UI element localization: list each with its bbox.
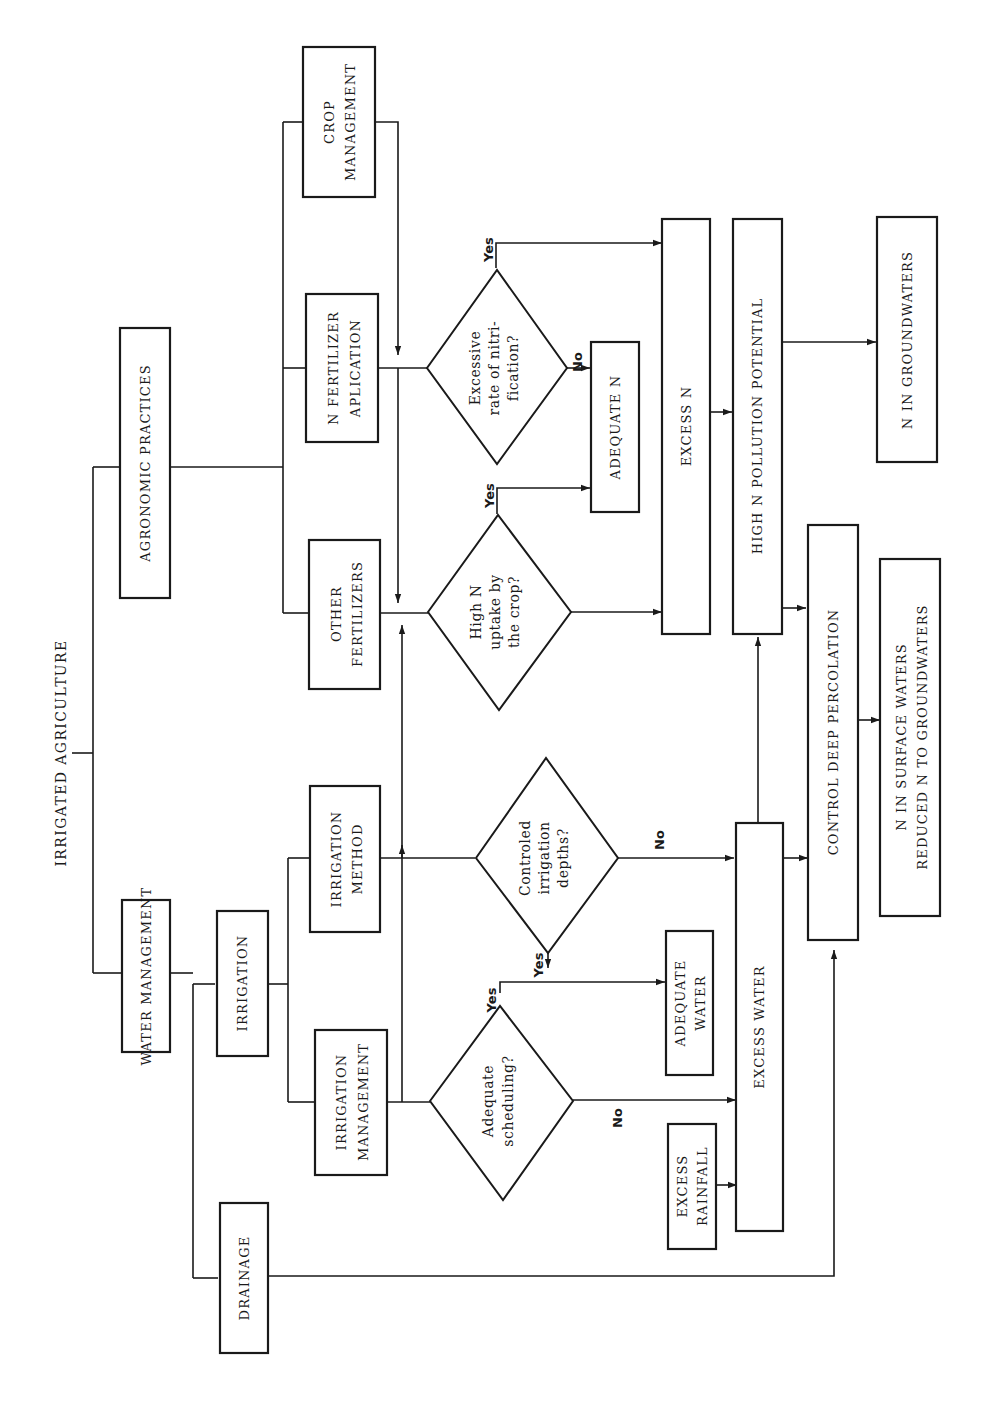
adequate-water-label-2: WATER: [693, 975, 708, 1030]
adequate-water-label-1: ADEQUATE: [673, 960, 688, 1048]
decision-excessive-nitrification[interactable]: Excessive rate of nitri- fication?: [427, 270, 567, 464]
scheduling-q-1: Adequate: [480, 1065, 496, 1138]
root-label: IRRIGATED AGRICULTURE: [53, 639, 69, 866]
control-deep-percolation-box[interactable]: CONTROL DEEP PERCOLATION: [808, 525, 858, 940]
excess-rainfall-label-1: EXCESS: [675, 1155, 690, 1218]
other-fertilizers-label-2: FERTILIZERS: [350, 561, 365, 667]
drainage-box[interactable]: DRAINAGE: [220, 1203, 268, 1353]
irrigation-box[interactable]: IRRIGATION: [217, 911, 268, 1056]
drainage-label: DRAINAGE: [237, 1236, 252, 1321]
depths-q-2: irrigation: [536, 821, 552, 894]
n-in-groundwaters-label: N IN GROUNDWATERS: [900, 251, 915, 429]
depths-q-1: Controled: [517, 820, 533, 896]
crop-management-label-2: MANAGEMENT: [343, 63, 358, 181]
adequate-n-box[interactable]: ADEQUATE N: [591, 342, 639, 512]
nitrification-q-1: Excessive: [467, 331, 483, 406]
agronomic-practices-label: AGRONOMIC PRACTICES: [138, 364, 153, 563]
nitrification-no-label: No: [570, 352, 585, 372]
other-fertilizers-label-1: OTHER: [329, 586, 344, 642]
n-fertilizer-label-1: N FERTILIZER: [326, 311, 341, 425]
depths-yes-label: Yes: [531, 952, 546, 978]
irrigation-method-label-2: METHOD: [350, 823, 365, 894]
decision-high-n-uptake[interactable]: High N uptake by the crop?: [428, 515, 571, 710]
n-in-surface-waters-box[interactable]: N IN SURFACE WATERS REDUCED N TO GROUNDW…: [880, 559, 940, 916]
uptake-yes-arrow: [497, 488, 590, 514]
crop-management-label-1: CROP: [322, 100, 337, 144]
decision-controled-depths[interactable]: Controled irrigation depths?: [476, 758, 618, 953]
uptake-q-3: the crop?: [506, 576, 522, 648]
irrigation-method-box[interactable]: IRRIGATION METHOD: [310, 786, 380, 932]
adequate-n-label: ADEQUATE N: [608, 375, 623, 481]
n-fertilizer-label-2: APLICATION: [348, 319, 363, 418]
scheduling-q-2: scheduling?: [500, 1055, 516, 1146]
scheduling-yes-arrow: [500, 982, 665, 993]
irrigation-management-box[interactable]: IRRIGATION MANAGEMENT: [315, 1030, 387, 1175]
excess-n-box[interactable]: EXCESS N: [662, 219, 710, 634]
high-n-pollution-box[interactable]: HIGH N POLLUTION POTENTIAL: [733, 219, 782, 634]
other-fertilizers-box[interactable]: OTHER FERTILIZERS: [309, 540, 380, 689]
water-management-box[interactable]: WATER MANAGEMENT: [122, 887, 170, 1066]
uptake-q-1: High N: [468, 585, 484, 640]
irrigation-method-label-1: IRRIGATION: [329, 811, 344, 908]
n-in-surface-waters-label-1: N IN SURFACE WATERS: [894, 643, 909, 831]
excess-water-label: EXCESS WATER: [752, 965, 767, 1088]
depths-q-3: depths?: [555, 828, 571, 888]
depths-no-label: No: [652, 830, 667, 850]
control-deep-percolation-label: CONTROL DEEP PERCOLATION: [826, 609, 841, 856]
agronomic-practices-box[interactable]: AGRONOMIC PRACTICES: [120, 328, 170, 598]
adequate-water-box[interactable]: ADEQUATE WATER: [666, 931, 713, 1075]
excess-rainfall-label-2: RAINFALL: [695, 1146, 710, 1226]
nitrification-q-2: rate of nitri-: [486, 321, 502, 416]
n-in-surface-waters-label-2: REDUCED N TO GROUNDWATERS: [915, 604, 930, 869]
excess-rainfall-box[interactable]: EXCESS RAINFALL: [668, 1124, 716, 1249]
irrigation-management-label-1: IRRIGATION: [334, 1054, 349, 1151]
uptake-yes-label: Yes: [482, 483, 497, 509]
n-in-groundwaters-box[interactable]: N IN GROUNDWATERS: [877, 217, 937, 462]
high-n-pollution-label: HIGH N POLLUTION POTENTIAL: [750, 298, 765, 555]
n-fertilizer-box[interactable]: N FERTILIZER APLICATION: [306, 294, 378, 442]
flowchart-canvas: IRRIGATED AGRICULTURE AGRONOMIC PRACTICE…: [0, 0, 995, 1422]
irrigation-label: IRRIGATION: [235, 935, 250, 1032]
scheduling-no-label: No: [610, 1108, 625, 1128]
excess-water-box[interactable]: EXCESS WATER: [736, 823, 783, 1231]
crop-management-box[interactable]: CROP MANAGEMENT: [303, 47, 375, 197]
irrigation-management-label-2: MANAGEMENT: [356, 1043, 371, 1161]
nitrification-q-3: fication?: [505, 335, 521, 401]
decision-adequate-scheduling[interactable]: Adequate scheduling?: [430, 1006, 573, 1200]
water-management-label: WATER MANAGEMENT: [139, 887, 154, 1066]
nitrification-yes-label: Yes: [481, 237, 496, 263]
uptake-q-2: uptake by: [487, 574, 503, 649]
nitrification-yes-arrow: [496, 243, 662, 268]
scheduling-yes-label: Yes: [484, 987, 499, 1013]
excess-n-label: EXCESS N: [679, 386, 694, 467]
